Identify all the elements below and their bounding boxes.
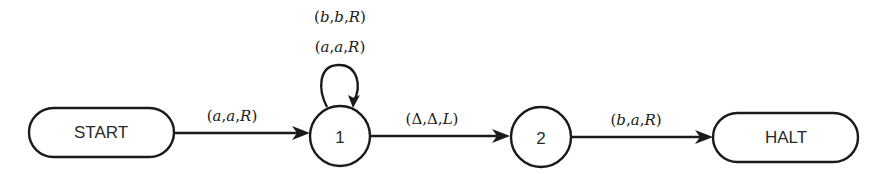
loop-label-bottom: (a,a,R)	[315, 38, 365, 56]
node-state-2-label: 2	[536, 129, 545, 148]
node-state-2: 2	[511, 107, 571, 167]
edge-1-to-2: (Δ,Δ,L)	[371, 110, 510, 143]
edge-label-start-1: (a,a,R)	[207, 107, 257, 125]
edge-1-self-loop: (b,b,R) (a,a,R)	[314, 8, 366, 108]
edge-label-2-halt: (b,a,R)	[610, 111, 661, 129]
node-start: START	[29, 108, 174, 157]
edge-start-to-1: (a,a,R)	[174, 107, 310, 140]
node-halt-label: HALT	[765, 128, 807, 147]
edge-2-to-halt: (b,a,R)	[572, 111, 713, 144]
node-state-1-label: 1	[335, 128, 344, 147]
edge-label-1-2: (Δ,Δ,L)	[406, 110, 459, 128]
arrowhead-icon	[348, 95, 360, 108]
node-start-label: START	[74, 123, 128, 142]
turing-machine-diagram: (a,a,R) (b,b,R) (a,a,R) (Δ,Δ,L) (b,a,R) …	[0, 0, 880, 174]
node-state-1: 1	[310, 106, 370, 166]
node-halt: HALT	[713, 113, 858, 162]
loop-label-top: (b,b,R)	[314, 8, 366, 26]
